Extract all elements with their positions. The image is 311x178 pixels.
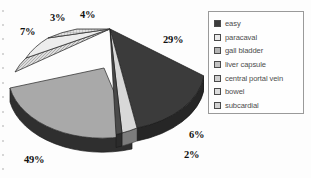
legend-item-bowel: bowel xyxy=(214,85,299,99)
chart-legend: easy paracaval gall bladder liver capsul… xyxy=(208,11,304,114)
slice-label-2: 2% xyxy=(184,149,199,160)
legend-swatch-paracaval-icon xyxy=(214,34,221,41)
slice-label-29: 29% xyxy=(163,34,183,45)
legend-label-paracaval: paracaval xyxy=(225,33,257,42)
legend-label-gall-bladder: gall bladder xyxy=(225,46,263,55)
slice-label-49: 49% xyxy=(24,154,44,165)
pie-chart-figure: 29% 6% 2% 49% 7% 3% 4% easy paracaval ga… xyxy=(0,0,311,178)
legend-item-paracaval: paracaval xyxy=(214,31,299,45)
legend-swatch-bowel-icon xyxy=(214,88,221,95)
legend-label-liver-capsule: liver capsule xyxy=(225,60,266,69)
legend-item-central-portal-vein: central portal vein xyxy=(214,71,299,85)
legend-label-bowel: bowel xyxy=(225,87,244,96)
legend-item-easy: easy xyxy=(214,17,299,31)
slice-label-3: 3% xyxy=(50,12,65,23)
slice-label-4: 4% xyxy=(80,9,95,20)
slice-label-6: 6% xyxy=(189,129,204,140)
legend-item-subcardial: subcardial xyxy=(214,99,299,113)
legend-item-gall-bladder: gall bladder xyxy=(214,44,299,58)
pie-plot-area: 29% 6% 2% 49% 7% 3% 4% xyxy=(4,2,204,178)
legend-item-liver-capsule: liver capsule xyxy=(214,58,299,72)
legend-label-central-portal-vein: central portal vein xyxy=(225,74,283,83)
legend-swatch-liver-capsule-icon xyxy=(214,61,221,68)
legend-label-subcardial: subcardial xyxy=(225,101,259,110)
legend-swatch-gall-bladder-icon xyxy=(214,47,221,54)
legend-swatch-central-portal-vein-icon xyxy=(214,75,221,82)
legend-swatch-subcardial-icon xyxy=(214,102,221,109)
legend-label-easy: easy xyxy=(225,19,241,28)
legend-swatch-easy-icon xyxy=(214,20,221,27)
slice-label-7: 7% xyxy=(20,26,35,37)
